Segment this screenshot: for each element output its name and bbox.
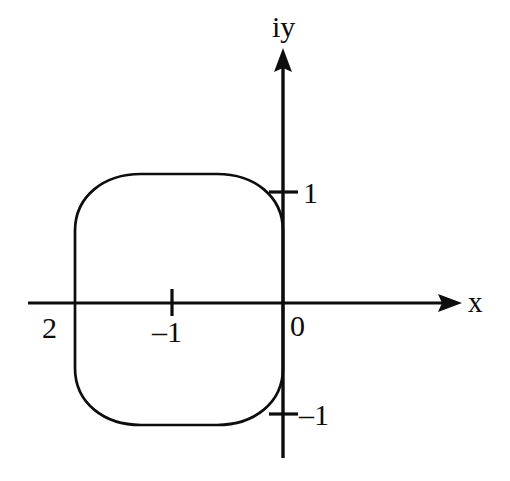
plot-canvas <box>0 0 510 481</box>
boundary-curve <box>75 174 283 425</box>
figure-root: iy x 0 2 –1 1 –1 <box>0 0 510 481</box>
y-tick-label-1: 1 <box>303 178 318 208</box>
x-axis-label: x <box>468 288 483 317</box>
x-tick-label-minus-1: –1 <box>152 317 182 347</box>
x-tick-label-2: 2 <box>42 313 57 343</box>
origin-label: 0 <box>290 311 305 341</box>
y-axis-label: iy <box>272 12 295 42</box>
y-tick-label-minus-1: –1 <box>299 400 329 430</box>
